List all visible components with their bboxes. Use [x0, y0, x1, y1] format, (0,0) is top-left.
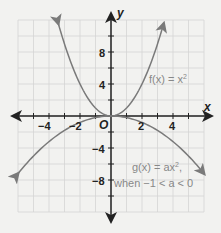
x-tick-label: −4: [38, 120, 51, 132]
y-axis-label: y: [116, 6, 125, 20]
x-tick-label: 2: [138, 120, 144, 132]
y-tick-label: −8: [92, 175, 105, 187]
y-tick-label: 8: [99, 47, 105, 59]
g-function-label: g(x) = ax2,: [132, 161, 182, 173]
x-tick-label: 4: [169, 120, 176, 132]
f-function-label: f(x) = x2: [149, 73, 187, 85]
y-tick-label: 4: [99, 79, 106, 91]
y-tick-label: −4: [92, 143, 105, 155]
x-axis-label: x: [203, 100, 212, 114]
x-tick-label: −2: [69, 120, 82, 132]
g-condition-label: when −1 < a < 0: [113, 177, 193, 189]
coordinate-plane: y x O −4 −2 2 4 8 4 −4 −8 f(x) = x2 g(x)…: [0, 0, 221, 233]
origin-label: O: [99, 118, 109, 132]
